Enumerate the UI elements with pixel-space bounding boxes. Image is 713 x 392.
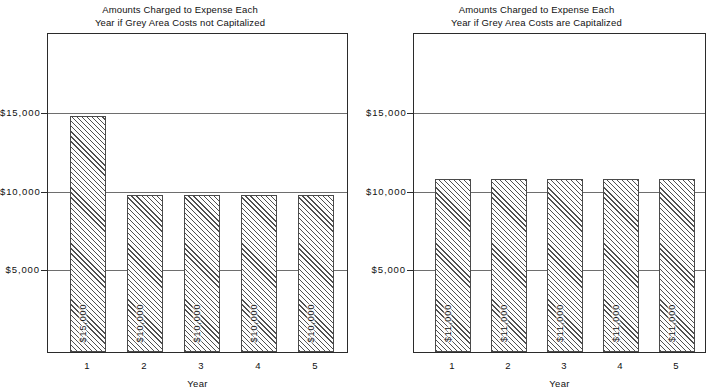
x-axis-title-left: Year	[47, 378, 348, 389]
chart-title-right-line2: Year if Grey Area Costs are Capitalized	[360, 17, 713, 30]
bar-year-5-right: $11,000	[659, 179, 695, 352]
x-tick-label-2-left: 2	[129, 360, 159, 371]
bar-value-year-4-right: $11,000	[611, 304, 621, 342]
y-axis-label-5000-left: $5,000	[0, 264, 40, 275]
bar-year-2-left: $10,000	[127, 195, 163, 352]
x-tick-label-1-right: 1	[437, 360, 467, 371]
y-axis-label-10000-left: $10,000	[0, 186, 40, 197]
y-axis-label-15000-right: $15,000	[366, 107, 406, 118]
chart-title-right-line1: Amounts Charged to Expense Each	[360, 4, 713, 17]
x-tick-label-2-right: 2	[493, 360, 523, 371]
bar-value-year-5-left: $10,000	[306, 304, 316, 343]
bar-value-year-5-right: $11,000	[667, 304, 677, 342]
x-axis-title-right: Year	[413, 378, 706, 389]
gridline-15000-right	[414, 113, 705, 114]
bar-value-year-1-right: $11,000	[443, 304, 453, 342]
bar-value-year-1-left: $15,000	[78, 304, 88, 343]
bar-year-3-left: $10,000	[184, 195, 220, 352]
x-tick-label-5-left: 5	[300, 360, 330, 371]
bar-year-3-right: $11,000	[547, 179, 583, 352]
bar-year-2-right: $11,000	[491, 179, 527, 352]
bar-year-1-right: $11,000	[435, 179, 471, 352]
chart-title-left-line1: Amounts Charged to Expense Each	[0, 4, 360, 17]
plot-area-left: $15,000 $10,000 $10,000 $10,000 $10,000	[47, 33, 348, 353]
figure-two-bar-charts: Amounts Charged to Expense Each Year if …	[0, 0, 713, 392]
x-tick-label-5-right: 5	[661, 360, 691, 371]
bar-year-5-left: $10,000	[298, 195, 334, 352]
y-axis-label-5000-right: $5,000	[366, 264, 406, 275]
bar-value-year-2-right: $11,000	[499, 304, 509, 342]
bar-year-4-left: $10,000	[241, 195, 277, 352]
y-axis-label-15000-left: $15,000	[0, 107, 40, 118]
bar-year-4-right: $11,000	[603, 179, 639, 352]
x-tick-label-3-right: 3	[549, 360, 579, 371]
chart-title-left: Amounts Charged to Expense Each Year if …	[0, 4, 360, 29]
y-axis-label-10000-right: $10,000	[366, 186, 406, 197]
bar-value-year-2-left: $10,000	[135, 304, 145, 343]
x-tick-label-3-left: 3	[186, 360, 216, 371]
bar-value-year-3-right: $11,000	[555, 304, 565, 342]
chart-panel-right: Amounts Charged to Expense Each Year if …	[360, 0, 713, 392]
x-tick-label-4-left: 4	[243, 360, 273, 371]
bar-value-year-4-left: $10,000	[249, 304, 259, 343]
plot-area-right: $11,000 $11,000 $11,000 $11,000 $11,000	[413, 33, 706, 353]
chart-title-right: Amounts Charged to Expense Each Year if …	[360, 4, 713, 29]
chart-panel-left: Amounts Charged to Expense Each Year if …	[0, 0, 360, 392]
bar-year-1-left: $15,000	[70, 116, 106, 352]
bar-value-year-3-left: $10,000	[192, 304, 202, 343]
chart-title-left-line2: Year if Grey Area Costs not Capitalized	[0, 17, 360, 30]
x-tick-label-1-left: 1	[72, 360, 102, 371]
gridline-15000-left	[48, 113, 347, 114]
x-tick-label-4-right: 4	[605, 360, 635, 371]
